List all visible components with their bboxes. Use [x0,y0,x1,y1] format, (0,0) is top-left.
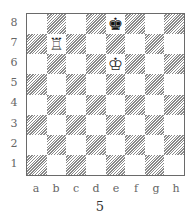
square-h2 [164,135,184,155]
square-b2 [47,135,67,155]
square-e5 [106,74,126,94]
square-e4 [106,95,126,115]
file-label-h: h [166,182,186,195]
square-g8 [145,14,165,34]
file-label-a: a [26,182,46,195]
square-h5 [164,74,184,94]
square-g2 [145,135,165,155]
square-f8 [125,14,145,34]
square-e1 [106,155,126,175]
square-c1 [66,155,86,175]
square-b8 [47,14,67,34]
square-f6 [125,54,145,74]
chess-board: ♚♖♔ [26,13,185,176]
rank-label-5: 5 [8,76,20,89]
square-g7 [145,34,165,54]
rank-label-4: 4 [8,96,20,109]
square-b6 [47,54,67,74]
white-king-icon: ♔ [108,56,123,73]
square-d4 [86,95,106,115]
square-f7 [125,34,145,54]
square-f5 [125,74,145,94]
white-rook-icon: ♖ [49,36,64,53]
file-label-f: f [126,182,146,195]
square-h3 [164,115,184,135]
square-g5 [145,74,165,94]
square-g4 [145,95,165,115]
square-c7 [66,34,86,54]
square-e2 [106,135,126,155]
file-label-e: e [106,182,126,195]
square-a7 [27,34,47,54]
square-c4 [66,95,86,115]
square-a6 [27,54,47,74]
rank-label-2: 2 [8,137,20,150]
file-label-b: b [46,182,66,195]
square-a8 [27,14,47,34]
square-d6 [86,54,106,74]
rank-label-3: 3 [8,117,20,130]
square-h8 [164,14,184,34]
file-label-g: g [146,182,166,195]
black-king-icon: ♚ [108,16,123,33]
square-f1 [125,155,145,175]
square-f3 [125,115,145,135]
square-c8 [66,14,86,34]
square-a2 [27,135,47,155]
square-d1 [86,155,106,175]
square-h7 [164,34,184,54]
rank-label-8: 8 [8,16,20,29]
rank-label-7: 7 [8,36,20,49]
square-c6 [66,54,86,74]
square-c2 [66,135,86,155]
square-h1 [164,155,184,175]
file-label-d: d [86,182,106,195]
square-d3 [86,115,106,135]
square-b3 [47,115,67,135]
square-a3 [27,115,47,135]
square-b4 [47,95,67,115]
square-a1 [27,155,47,175]
square-b7: ♖ [47,34,67,54]
square-h4 [164,95,184,115]
square-f4 [125,95,145,115]
square-f2 [125,135,145,155]
square-h6 [164,54,184,74]
file-label-c: c [66,182,86,195]
square-d5 [86,74,106,94]
square-g3 [145,115,165,135]
square-d7 [86,34,106,54]
square-d2 [86,135,106,155]
square-g1 [145,155,165,175]
square-b1 [47,155,67,175]
square-a5 [27,74,47,94]
square-d8 [86,14,106,34]
rank-label-1: 1 [8,157,20,170]
square-e8: ♚ [106,14,126,34]
square-e6: ♔ [106,54,126,74]
square-a4 [27,95,47,115]
square-e3 [106,115,126,135]
square-c3 [66,115,86,135]
rank-label-6: 6 [8,56,20,69]
square-g6 [145,54,165,74]
square-e7 [106,34,126,54]
square-b5 [47,74,67,94]
diagram-caption: 5 [90,199,110,214]
square-c5 [66,74,86,94]
